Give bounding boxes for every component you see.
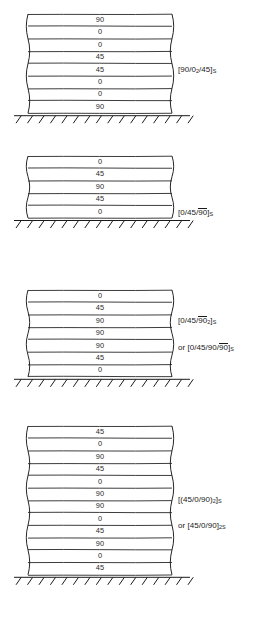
notation-fragment: [0/45/: [178, 208, 198, 217]
ground-hatch-tick: [27, 221, 32, 229]
ply-angle-label: 45: [28, 564, 172, 571]
ground-hatch-tick: [131, 116, 136, 123]
ground-hatch-tick: [27, 379, 32, 386]
ply-angle-label: 0: [28, 90, 172, 97]
notation-fragment: 90: [198, 208, 207, 217]
ground-hatch-tick: [50, 577, 55, 584]
ground-hatch-tick: [96, 379, 101, 386]
ground-hatch-tick: [96, 116, 101, 123]
ply-angle-label: 45: [28, 354, 172, 361]
ground-hatch-tick: [62, 577, 67, 584]
ground-hatch-tick: [96, 577, 101, 584]
ply-angle-label: 0: [28, 292, 172, 299]
notation-fragment: [(45/0/90): [178, 495, 213, 504]
ground-hatch-tick: [142, 379, 147, 386]
ply-angle-label: 90: [28, 540, 172, 547]
ground-hatch-tick: [85, 577, 90, 584]
ground-hatch-tick: [16, 221, 21, 229]
ground-hatch-tick: [73, 379, 78, 386]
ground-hatch-tick: [165, 379, 170, 386]
ground-hatch-tick: [119, 221, 124, 229]
ply-angle-label: 45: [28, 304, 172, 311]
ground-hatch-tick: [108, 379, 113, 386]
notation-fragment: [90/0: [178, 65, 196, 74]
ply-angle-label: 0: [28, 366, 172, 373]
ground-hatch-tick: [39, 577, 44, 584]
ground-hatch-tick: [188, 221, 193, 229]
ply-angle-label: 0: [28, 515, 172, 522]
ply-angle-label: 0: [28, 440, 172, 447]
ground-hatch-tick: [73, 221, 78, 229]
ground-hatch-tick: [154, 221, 159, 229]
ground-hatch-tick: [177, 379, 182, 386]
notation-fragment: or [0/45/90/: [178, 343, 219, 352]
ply-angle-label: 45: [28, 527, 172, 534]
ground-hatch-tick: [154, 379, 159, 386]
ground-hatch-tick: [177, 221, 182, 229]
notation-fragment: S: [210, 211, 214, 217]
notation-3a: [0/45/902]S: [178, 316, 254, 326]
notation-fragment: S: [213, 68, 217, 74]
ply-angle-label: 45: [28, 53, 172, 60]
ground-hatch-tick: [165, 221, 170, 229]
ply-angle-label: 90: [28, 342, 172, 349]
ground-hatch-tick: [188, 379, 193, 386]
ground-hatch-tick: [85, 379, 90, 386]
laminate-figure: 900045450090[90/02/45]S04590450[0/45/90]…: [0, 0, 254, 618]
ply-angle-label: 90: [28, 317, 172, 324]
ground-hatch-tick: [85, 221, 90, 229]
ground-hatch-tick: [142, 116, 147, 123]
ply-angle-label: 0: [28, 158, 172, 165]
ply-angle-label: 45: [28, 66, 172, 73]
notation-4a: [(45/0/90)2]S: [178, 496, 254, 505]
ground-hatch-tick: [39, 116, 44, 123]
ply-angle-label: 90: [28, 490, 172, 497]
ground-hatch-tick: [108, 577, 113, 584]
notation-fragment: S: [213, 319, 217, 325]
ground-hatch-tick: [96, 221, 101, 229]
ground-hatch-tick: [39, 221, 44, 229]
ground-hatch-tick: [142, 221, 147, 229]
ground-hatch-tick: [119, 577, 124, 584]
ground-hatch-tick: [154, 116, 159, 123]
notation-fragment: 2S: [219, 524, 226, 530]
laminate-2-notation-block: [0/45/90]S: [178, 208, 254, 218]
ground-hatch-tick: [177, 116, 182, 123]
notation-fragment: 90: [198, 316, 207, 325]
ply-angle-label: 0: [28, 208, 172, 215]
ply-angle-label: 0: [28, 552, 172, 559]
ground-hatch-tick: [131, 379, 136, 386]
ply-angle-label: 45: [28, 195, 172, 202]
ply-angle-label: 0: [28, 41, 172, 48]
ply-angle-label: 90: [28, 103, 172, 110]
ground-hatch-tick: [16, 379, 21, 386]
ply-angle-label: 45: [28, 170, 172, 177]
ground-hatch-tick: [188, 577, 193, 584]
ply-angle-label: 45: [28, 465, 172, 472]
ply-angle-label: 90: [28, 453, 172, 460]
ply-angle-label: 90: [28, 16, 172, 23]
ground-hatch-tick: [131, 577, 136, 584]
ground-hatch-tick: [108, 116, 113, 123]
laminate-3-notation-block: [0/45/902]Sor [0/45/90/90]S: [178, 316, 254, 353]
laminate-2: 04590450: [0, 150, 254, 242]
notation-1a: [90/02/45]S: [178, 66, 254, 75]
ground-hatch-tick: [131, 221, 136, 229]
ground-hatch-tick: [16, 577, 21, 584]
ply-angle-label: 45: [28, 428, 172, 435]
ply-angle-label: 90: [28, 502, 172, 509]
ply-angle-label: 0: [28, 478, 172, 485]
ply-angle-label: 90: [28, 329, 172, 336]
ground-hatch-tick: [73, 116, 78, 123]
ground-hatch-tick: [50, 116, 55, 123]
notation-2a: [0/45/90]S: [178, 208, 254, 218]
laminate-1-notation-block: [90/02/45]S: [178, 66, 254, 75]
ground-hatch-tick: [27, 577, 32, 584]
notation-4b: or [45/0/90]2S: [178, 522, 254, 531]
notation-fragment: [0/45/: [178, 316, 198, 325]
ply-angle-label: 0: [28, 78, 172, 85]
notation-fragment: /45]: [199, 65, 213, 74]
notation-fragment: S: [230, 346, 234, 352]
ground-hatch-tick: [165, 116, 170, 123]
ground-hatch-tick: [50, 379, 55, 386]
